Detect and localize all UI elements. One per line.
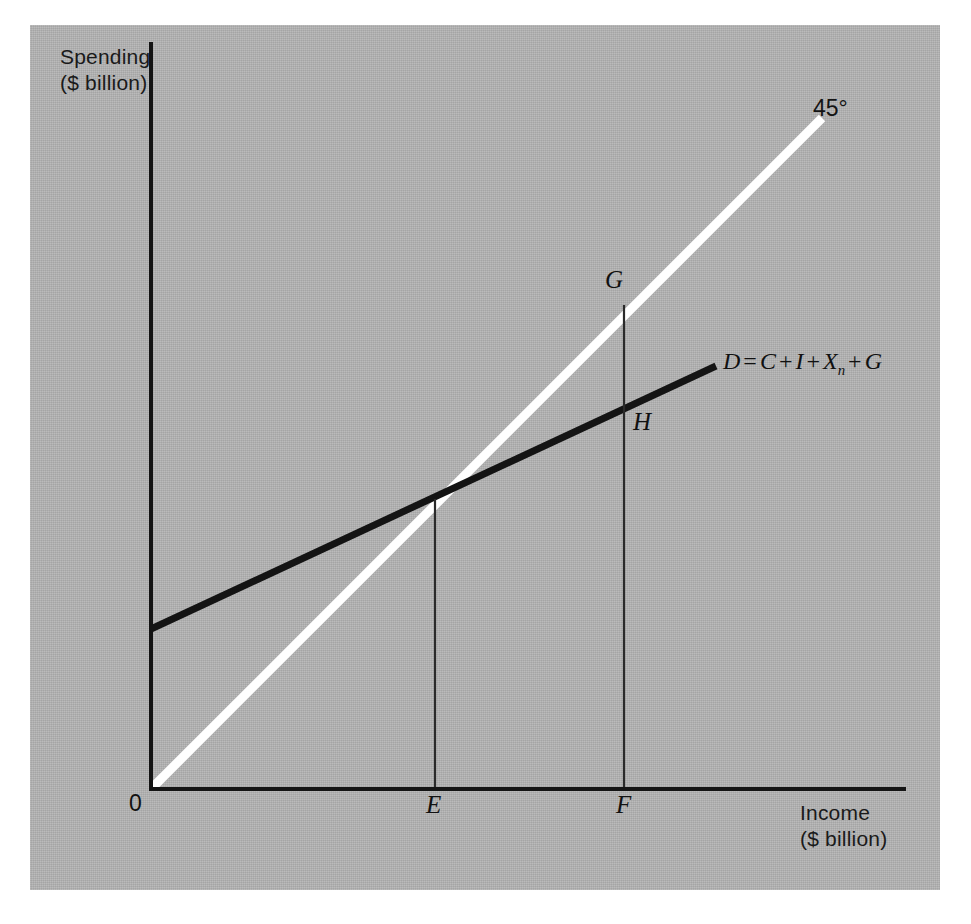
point-label-h: H	[633, 408, 651, 436]
tick-label-e: E	[426, 791, 441, 819]
equation-lhs: D	[723, 348, 740, 374]
figure-root: Spending ($ billion) Income ($ billion) …	[0, 0, 971, 924]
tick-label-f: F	[616, 791, 631, 819]
equation-equals: =	[740, 348, 760, 374]
forty-five-degree-label: 45°	[813, 95, 848, 122]
aggregate-demand-equation-label: D=C+I+Xn+G	[723, 348, 882, 379]
equation-term-government: G	[865, 348, 882, 374]
point-label-g: G	[605, 266, 623, 294]
equation-term-net-exports-subscript: n	[838, 362, 845, 378]
equation-plus-1: +	[776, 348, 796, 374]
x-axis-label: Income ($ billion)	[800, 800, 887, 852]
equation-plus-2: +	[803, 348, 823, 374]
origin-label: 0	[129, 790, 142, 817]
chart-panel	[30, 25, 940, 890]
equation-term-consumption: C	[760, 348, 776, 374]
equation-term-net-exports: X	[823, 348, 838, 374]
equation-plus-3: +	[845, 348, 865, 374]
y-axis-label: Spending ($ billion)	[60, 44, 150, 96]
